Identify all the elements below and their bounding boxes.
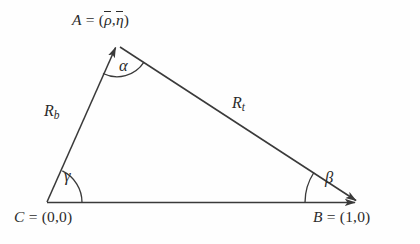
angle-beta-arc — [305, 173, 314, 203]
vertex-a-equals: = — [86, 11, 95, 28]
side-rt-line — [120, 47, 356, 201]
side-rb-line — [47, 48, 116, 203]
vertex-b-value: (1,0) — [340, 208, 371, 225]
vertex-c-equals: = — [29, 208, 38, 225]
side-label-rb: Rb — [44, 103, 60, 122]
rho-bar-symbol: ρ — [104, 12, 112, 28]
rb-subscript: b — [54, 109, 60, 121]
vertex-a-name: A — [72, 11, 82, 28]
vertex-c-value: (0,0) — [42, 208, 73, 225]
vertex-label-c: C = (0,0) — [14, 209, 72, 225]
angle-label-gamma: γ — [64, 168, 71, 185]
paren-close: ) — [124, 11, 129, 28]
angle-label-alpha: α — [119, 58, 128, 75]
vertex-b-equals: = — [327, 208, 336, 225]
eta-bar-symbol: η — [116, 12, 124, 28]
vertex-c-name: C — [14, 208, 25, 225]
rb-symbol: R — [44, 102, 54, 119]
vertex-label-a: A = (ρ,η) — [72, 12, 129, 28]
figure-canvas: A = (ρ,η) C = (0,0) B = (1,0) Rb Rt α β … — [0, 0, 420, 244]
vertex-label-b: B = (1,0) — [313, 209, 370, 225]
vertex-b-name: B — [313, 208, 323, 225]
angle-label-beta: β — [325, 170, 333, 187]
rt-subscript: t — [242, 101, 245, 113]
side-label-rt: Rt — [232, 95, 245, 114]
rt-symbol: R — [232, 94, 242, 111]
